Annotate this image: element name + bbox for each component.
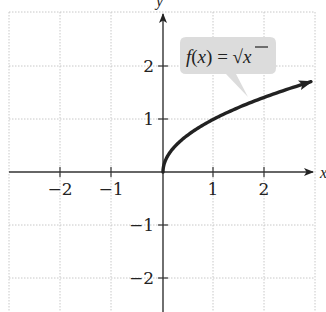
x-tick-label: −1 [98,179,123,199]
x-tick-label: 2 [259,179,270,199]
y-axis-label: y [154,0,164,10]
y-tick-label: 2 [143,56,154,76]
x-axis-label: x [319,164,326,181]
function-label: f(x) = √x [186,46,252,68]
sqrt-curve [163,82,311,172]
function-callout: f(x) = √x [180,37,276,97]
sqrt-function-graph: x y −2 −1 1 2 2 1 −1 −2 f(x) = √x [0,0,326,312]
y-tick-label: −2 [129,268,154,288]
y-tick-label: 1 [143,109,154,129]
x-tick-label: −2 [47,179,72,199]
y-tick-label: −1 [129,215,154,235]
x-tick-label: 1 [208,179,219,199]
